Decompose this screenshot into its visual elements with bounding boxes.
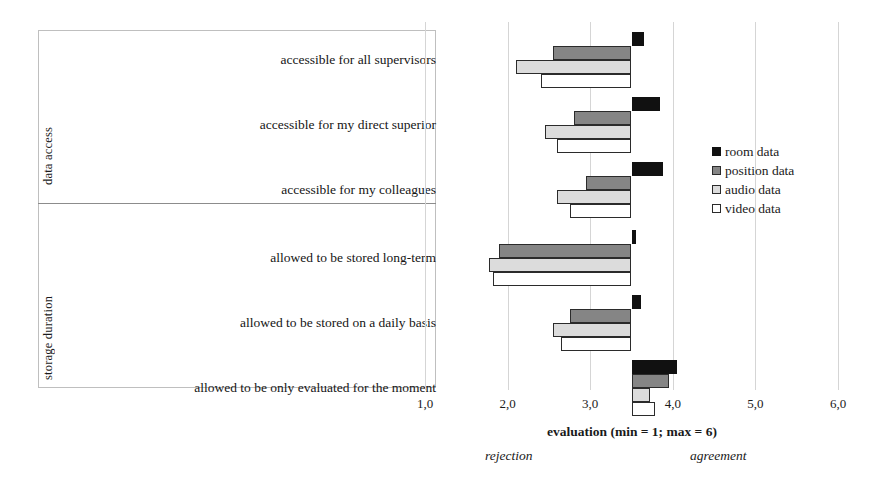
bar-audio-data-cat2 xyxy=(557,190,631,204)
bar-room-data-cat5 xyxy=(632,360,677,374)
bar-audio-data-cat0 xyxy=(516,60,632,74)
legend-label-0: room data xyxy=(725,142,779,161)
legend-label-2: audio data xyxy=(725,180,781,199)
legend-label-3: video data xyxy=(725,199,781,218)
bar-video-data-cat1 xyxy=(557,139,631,153)
group-title-storage-duration: storage duration xyxy=(41,230,56,380)
legend-item-video-data[interactable]: video data xyxy=(712,199,794,218)
category-label-4: allowed to be stored on a daily basis xyxy=(240,316,436,330)
chart-figure: data access storage duration accessible … xyxy=(0,0,882,498)
bar-video-data-cat5 xyxy=(632,402,655,416)
bar-audio-data-cat5 xyxy=(632,388,650,402)
category-label-2: accessible for my colleagues xyxy=(281,183,436,197)
legend-swatch-icon-1 xyxy=(712,166,721,175)
bar-audio-data-cat1 xyxy=(545,125,632,139)
category-label-0: accessible for all supervisors xyxy=(280,53,436,67)
gridline-4-0 xyxy=(673,22,674,390)
category-label-5: allowed to be only evaluated for the mom… xyxy=(194,381,436,395)
group-title-data-access: data access xyxy=(41,55,56,185)
bar-position-data-cat4 xyxy=(570,309,632,323)
gridline-6-0 xyxy=(838,22,839,390)
bar-position-data-cat5 xyxy=(632,374,669,388)
x-tick-label-4: 5,0 xyxy=(747,396,763,412)
bar-position-data-cat2 xyxy=(586,176,631,190)
bar-room-data-cat0 xyxy=(632,32,644,46)
x-tick-label-2: 3,0 xyxy=(582,396,598,412)
bar-position-data-cat3 xyxy=(499,244,631,258)
legend-item-room-data[interactable]: room data xyxy=(712,142,794,161)
category-label-panel xyxy=(38,30,436,388)
bar-video-data-cat2 xyxy=(570,204,632,218)
legend-swatch-icon-0 xyxy=(712,147,721,156)
x-tick-label-1: 2,0 xyxy=(499,396,515,412)
legend-swatch-icon-3 xyxy=(712,204,721,213)
gridline-1-0 xyxy=(425,22,426,390)
legend-swatch-icon-2 xyxy=(712,185,721,194)
bar-room-data-cat2 xyxy=(632,162,663,176)
axis-anchor-high: agreement xyxy=(690,448,746,464)
bar-video-data-cat0 xyxy=(541,74,632,88)
legend: room dataposition dataaudio datavideo da… xyxy=(712,142,794,218)
panel-divider xyxy=(38,203,436,204)
x-tick-label-0: 1,0 xyxy=(417,396,433,412)
bar-audio-data-cat4 xyxy=(553,323,631,337)
bar-video-data-cat3 xyxy=(493,272,632,286)
legend-label-1: position data xyxy=(725,161,794,180)
bar-room-data-cat1 xyxy=(632,97,661,111)
bar-audio-data-cat3 xyxy=(489,258,631,272)
x-tick-label-3: 4,0 xyxy=(665,396,681,412)
x-tick-label-5: 6,0 xyxy=(830,396,846,412)
gridline-2-0 xyxy=(508,22,509,390)
bar-room-data-cat3 xyxy=(632,230,636,244)
bar-video-data-cat4 xyxy=(561,337,631,351)
axis-anchor-low: rejection xyxy=(485,448,532,464)
bar-position-data-cat0 xyxy=(553,46,631,60)
x-axis-title: evaluation (min = 1; max = 6) xyxy=(425,424,839,440)
category-label-3: allowed to be stored long-term xyxy=(270,251,436,265)
legend-item-audio-data[interactable]: audio data xyxy=(712,180,794,199)
category-label-1: accessible for my direct superior xyxy=(260,118,436,132)
bar-position-data-cat1 xyxy=(574,111,632,125)
legend-item-position-data[interactable]: position data xyxy=(712,161,794,180)
bar-room-data-cat4 xyxy=(632,295,642,309)
